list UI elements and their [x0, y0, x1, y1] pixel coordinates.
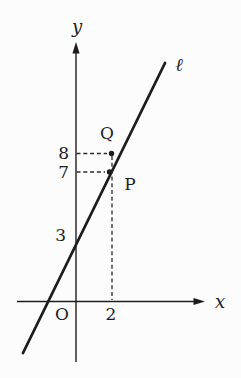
point-Q-label: Q [100, 123, 114, 143]
y-tick-3: 3 [55, 225, 66, 245]
line-ell-label: ℓ [175, 54, 183, 75]
x-tick-2: 2 [106, 304, 117, 324]
y-tick-7: 7 [58, 162, 69, 182]
x-axis-arrow-icon [194, 298, 206, 305]
point-P-dot [107, 169, 112, 174]
line-ell [23, 63, 165, 353]
x-axis-label: x [215, 291, 225, 312]
figure-canvas: y x ℓ Q P 8 7 3 O 2 [0, 0, 241, 378]
point-Q-dot [109, 151, 114, 156]
dashed-guides [77, 154, 113, 301]
point-P-label: P [124, 174, 135, 194]
coordinate-plane-figure: y x ℓ Q P 8 7 3 O 2 [0, 0, 241, 378]
y-axis-arrow-icon [72, 42, 79, 54]
y-tick-8: 8 [58, 143, 69, 163]
origin-label: O [55, 304, 69, 324]
y-axis-label: y [71, 16, 83, 37]
